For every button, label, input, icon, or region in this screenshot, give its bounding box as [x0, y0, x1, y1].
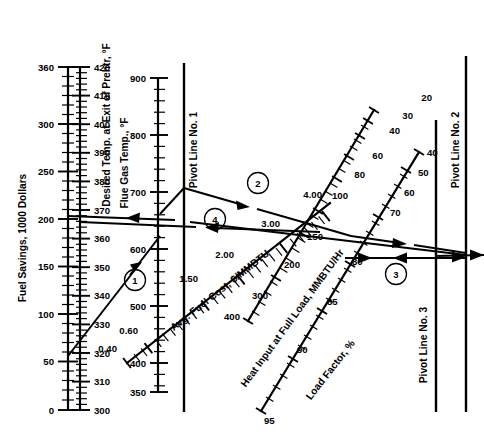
heat-input-tick-label: 40 [389, 125, 400, 136]
fuel-savings-tick-label: 0 [49, 405, 54, 416]
nomogram-figure: 360 300 250 200 150 100 50 0 Fuel Saving… [0, 0, 484, 436]
desired-temp-tick-label: 300 [94, 405, 110, 416]
heat-input-tick-label: 400 [224, 311, 240, 322]
fuel-savings-tick-label: 250 [38, 166, 54, 177]
load-factor-tick-label: 95 [264, 415, 275, 426]
construction-line-step-3d [436, 255, 484, 256]
step-4-number: 4 [212, 214, 218, 225]
fuel-cost-tick-label: 0.60 [119, 325, 138, 336]
heat-input-tick-label: 300 [252, 290, 268, 301]
fuel-savings-tick-label: 360 [38, 62, 54, 73]
fuel-savings-tick-label: 200 [38, 214, 54, 225]
fuel-savings-tick-label: 150 [38, 261, 54, 272]
step-3-number: 3 [393, 269, 398, 280]
fuel-cost-tick-label: 0.40 [98, 343, 117, 354]
fuel-savings-tick-label: 300 [38, 119, 54, 130]
heat-input-tick-label: 100 [332, 190, 348, 201]
step-2-number: 2 [255, 178, 260, 189]
fuel-savings-axis-title: Fuel Savings, 1000 Dollars [17, 173, 28, 302]
fuel-cost-tick-label: 2.00 [215, 249, 234, 260]
desired-temp-tick-label: 310 [94, 376, 110, 387]
desired-temp-tick-label: 340 [94, 290, 110, 301]
pivot-line-3-label: Pivot Line No. 3 [418, 306, 429, 383]
pivot-line-2-label: Pivot Line No. 2 [450, 111, 461, 188]
nomogram-canvas: 360 300 250 200 150 100 50 0 Fuel Saving… [0, 0, 484, 436]
flue-gas-axis-title: Flue Gas Temp., °F [119, 117, 130, 208]
heat-input-tick-label: 80 [354, 169, 365, 180]
flue-gas-tick-label: 500 [130, 301, 146, 312]
heat-input-tick-label: 200 [284, 259, 300, 270]
flue-gas-tick-label: 350 [130, 387, 146, 398]
desired-temp-axis-title: Desired Temp. at Exit of Prehtr, °F [101, 43, 112, 207]
load-factor-tick-label: 50 [418, 167, 429, 178]
load-factor-tick-label: 85 [327, 296, 338, 307]
fuel-savings-tick-label: 50 [43, 356, 54, 367]
load-factor-tick-label: 90 [297, 344, 308, 355]
fuel-cost-tick-label: 1.50 [179, 273, 198, 284]
heat-input-tick-label: 60 [372, 150, 383, 161]
flue-gas-tick-label: 700 [130, 187, 146, 198]
fuel-cost-tick-label: 4.00 [303, 189, 322, 200]
desired-temp-tick-label: 360 [94, 233, 110, 244]
flue-gas-tick-label: 900 [130, 73, 146, 84]
fuel-cost-tick-label: 3.00 [261, 218, 280, 229]
step-1-number: 1 [132, 275, 138, 286]
load-factor-tick-label: 70 [390, 207, 401, 218]
heat-input-tick-label: 30 [402, 110, 413, 121]
heat-input-tick-label: 20 [421, 92, 432, 103]
flue-gas-tick-label: 600 [130, 244, 146, 255]
pivot-line-1-label: Pivot Line No. 1 [188, 111, 199, 188]
flue-gas-tick-label: 800 [130, 130, 146, 141]
load-factor-tick-label: 60 [404, 187, 415, 198]
fuel-savings-tick-label: 100 [38, 309, 54, 320]
desired-temp-tick-label: 350 [94, 262, 110, 273]
